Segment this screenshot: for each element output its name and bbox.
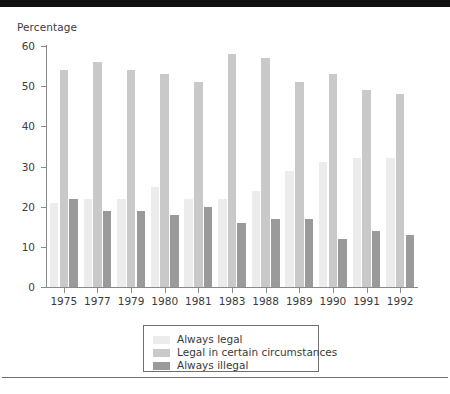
bar	[372, 231, 381, 287]
bar	[386, 158, 395, 287]
y-tick-mark	[41, 247, 46, 248]
bar	[151, 187, 160, 287]
bar	[170, 215, 179, 287]
y-tick-label: 60	[11, 41, 35, 52]
y-tick-mark	[41, 287, 46, 288]
legend-swatch-icon	[153, 362, 170, 370]
bar	[362, 90, 371, 287]
bar	[160, 74, 169, 287]
x-tick-mark	[333, 288, 334, 293]
bar	[204, 207, 213, 287]
legend-label: Always legal	[177, 334, 243, 345]
legend-item: Always legal	[153, 333, 243, 346]
bar-chart: Percentage 0102030405060 197519771979198…	[0, 0, 450, 394]
bar	[396, 94, 405, 287]
bar	[329, 74, 338, 287]
chart-legend: Always legalLegal in certain circumstanc…	[143, 325, 319, 372]
x-tick-mark	[97, 288, 98, 293]
bar	[406, 235, 415, 287]
legend-label: Always illegal	[177, 360, 248, 371]
x-tick-mark	[232, 288, 233, 293]
legend-swatch-icon	[153, 336, 170, 344]
bar	[60, 70, 69, 287]
legend-swatch-icon	[153, 349, 170, 357]
plot-area	[47, 46, 417, 287]
bar	[194, 82, 203, 287]
bar	[218, 199, 227, 287]
bar	[50, 203, 59, 287]
bar	[338, 239, 347, 287]
bar	[127, 70, 136, 287]
legend-label: Legal in certain circumstances	[177, 347, 337, 358]
x-tick-mark	[266, 288, 267, 293]
y-tick-mark	[41, 126, 46, 127]
bar	[184, 199, 193, 287]
bar	[261, 58, 270, 287]
x-tick-mark	[400, 288, 401, 293]
x-tick-mark	[131, 288, 132, 293]
y-tick-label: 0	[11, 282, 35, 293]
y-axis-title: Percentage	[17, 21, 77, 33]
bar	[93, 62, 102, 287]
bar	[137, 211, 146, 287]
bar	[84, 199, 93, 287]
legend-item: Always illegal	[153, 359, 248, 372]
bar	[319, 162, 328, 287]
x-tick-mark	[367, 288, 368, 293]
bottom-divider	[2, 377, 448, 378]
bar	[117, 199, 126, 287]
x-tick-mark	[64, 288, 65, 293]
y-tick-label: 30	[11, 162, 35, 173]
bar	[305, 219, 314, 287]
bar	[237, 223, 246, 287]
y-tick-mark	[41, 167, 46, 168]
bar	[228, 54, 237, 287]
y-tick-mark	[41, 86, 46, 87]
y-tick-label: 40	[11, 121, 35, 132]
y-tick-label: 10	[11, 242, 35, 253]
bar	[353, 158, 362, 287]
y-tick-label: 20	[11, 202, 35, 213]
x-tick-mark	[198, 288, 199, 293]
bar	[69, 199, 78, 287]
y-tick-label: 50	[11, 81, 35, 92]
y-tick-mark	[41, 46, 46, 47]
legend-item: Legal in certain circumstances	[153, 346, 337, 359]
y-tick-mark	[41, 207, 46, 208]
bar	[271, 219, 280, 287]
x-tick-mark	[299, 288, 300, 293]
bar	[252, 191, 261, 287]
x-tick-mark	[165, 288, 166, 293]
bar	[103, 211, 112, 287]
bar	[285, 171, 294, 287]
bar	[295, 82, 304, 287]
x-tick-label: 1992	[378, 296, 422, 307]
